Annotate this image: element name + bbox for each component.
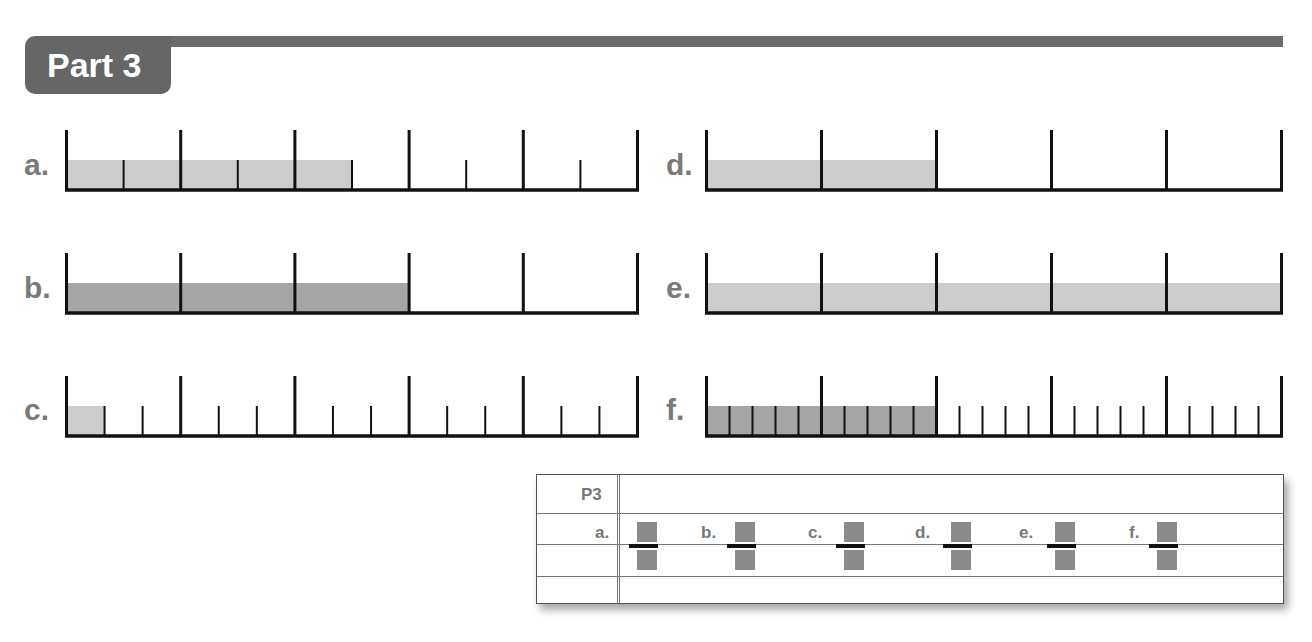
- answer-box-title: P3: [581, 485, 602, 505]
- fraction-bar-d-svg: [705, 130, 1283, 192]
- bar-label-c: c.: [24, 393, 49, 427]
- shaded-region: [67, 283, 410, 313]
- fraction-bar-f: [705, 376, 1283, 438]
- numerator-input[interactable]: [1157, 522, 1177, 542]
- fraction-bar-e: [705, 253, 1283, 315]
- fraction-line: [629, 544, 658, 548]
- fraction-bar-c-svg: [65, 376, 639, 438]
- answer-box: P3 a. b. c. d. e. f.: [536, 474, 1284, 604]
- answer-label: e.: [1019, 523, 1033, 543]
- fraction-bar-b-svg: [65, 253, 639, 315]
- numerator-input[interactable]: [637, 522, 657, 542]
- header-rule: [60, 36, 1283, 47]
- bar-label-e: e.: [666, 271, 691, 305]
- numerator-input[interactable]: [735, 522, 755, 542]
- answer-box-divider: [617, 475, 620, 603]
- fraction-bar-a: [65, 130, 639, 192]
- answer-label: c.: [808, 523, 822, 543]
- bar-label-b: b.: [24, 271, 51, 305]
- denominator-input[interactable]: [1055, 550, 1075, 570]
- bar-label-d: d.: [666, 148, 693, 182]
- shaded-region: [67, 160, 353, 190]
- fraction-line: [1047, 544, 1076, 548]
- fraction-line: [943, 544, 972, 548]
- fraction-bar-c: [65, 376, 639, 438]
- answer-box-rule: [537, 513, 1283, 514]
- numerator-input[interactable]: [1055, 522, 1075, 542]
- fraction-line: [727, 544, 756, 548]
- denominator-input[interactable]: [1157, 550, 1177, 570]
- fraction-bar-b: [65, 253, 639, 315]
- numerator-input[interactable]: [951, 522, 971, 542]
- fraction-line: [1149, 544, 1178, 548]
- shaded-region: [67, 406, 105, 436]
- answer-label: a.: [595, 523, 609, 543]
- shaded-region: [707, 283, 1282, 313]
- bar-label-a: a.: [24, 148, 49, 182]
- part-title: Part 3: [25, 36, 171, 94]
- fraction-bar-e-svg: [705, 253, 1283, 315]
- bar-label-f: f.: [666, 393, 684, 427]
- fraction-bar-a-svg: [65, 130, 639, 192]
- fraction-line: [836, 544, 865, 548]
- fraction-bar-d: [705, 130, 1283, 192]
- denominator-input[interactable]: [844, 550, 864, 570]
- denominator-input[interactable]: [735, 550, 755, 570]
- answer-label: d.: [915, 523, 930, 543]
- numerator-input[interactable]: [844, 522, 864, 542]
- answer-box-rule: [537, 576, 1283, 577]
- denominator-input[interactable]: [951, 550, 971, 570]
- fraction-bar-f-svg: [705, 376, 1283, 438]
- denominator-input[interactable]: [637, 550, 657, 570]
- answer-label: b.: [701, 523, 716, 543]
- answer-label: f.: [1129, 523, 1139, 543]
